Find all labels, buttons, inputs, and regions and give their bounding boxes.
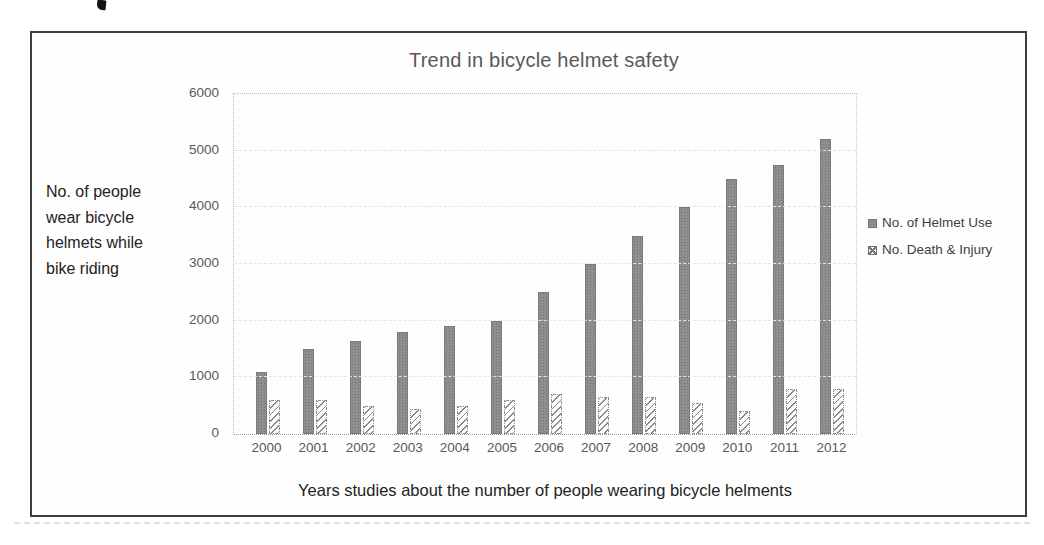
bar-helmet-use <box>256 372 267 434</box>
bar-death-injury <box>504 400 515 434</box>
gridline <box>234 263 856 264</box>
y-tick-label: 6000 <box>149 85 219 100</box>
bar-helmet-use <box>585 264 596 434</box>
x-tick-label: 2000 <box>243 440 290 455</box>
bar-helmet-use <box>350 341 361 435</box>
plot-area <box>233 93 857 435</box>
y-tick-label: 2000 <box>149 312 219 327</box>
x-tick-label: 2009 <box>667 440 714 455</box>
legend-item-helmet-use: No. of Helmet Use <box>868 212 992 234</box>
bar-group <box>444 326 468 434</box>
bar-groups <box>234 94 856 434</box>
x-tick-label: 2012 <box>808 440 855 455</box>
x-tick-label: 2005 <box>478 440 525 455</box>
bar-death-injury <box>410 409 421 435</box>
bar-death-injury <box>551 394 562 434</box>
legend-item-death-injury: No. Death & Injury <box>868 239 992 261</box>
bar-group <box>538 292 562 434</box>
bar-death-injury <box>692 403 703 434</box>
y-tick-label: 3000 <box>149 255 219 270</box>
chart-frame: Trend in bicycle helmet safety No. of pe… <box>30 31 1027 517</box>
bar-group <box>256 372 280 434</box>
bar-helmet-use <box>820 139 831 434</box>
bar-death-injury <box>269 400 280 434</box>
x-axis-ticks: 2000200120022003200420052006200720082009… <box>233 440 855 455</box>
bar-helmet-use <box>303 349 314 434</box>
legend-solid-square-icon <box>868 219 877 228</box>
scan-artifact-mark <box>97 0 107 10</box>
bar-death-injury <box>363 406 374 434</box>
x-tick-label: 2011 <box>761 440 808 455</box>
y-tick-label: 1000 <box>149 368 219 383</box>
bar-helmet-use <box>444 326 455 434</box>
legend-label-helmet-use: No. of Helmet Use <box>882 212 992 234</box>
y-tick-label: 5000 <box>149 142 219 157</box>
bar-group <box>350 341 374 435</box>
bar-group <box>397 332 421 434</box>
chart-title: Trend in bicycle helmet safety <box>233 49 855 72</box>
legend-hatched-square-icon <box>868 246 877 255</box>
bar-helmet-use <box>679 207 690 434</box>
bar-group <box>303 349 327 434</box>
x-tick-label: 2008 <box>620 440 667 455</box>
x-tick-label: 2004 <box>431 440 478 455</box>
bar-death-injury <box>739 411 750 434</box>
bar-helmet-use <box>726 179 737 434</box>
x-tick-label: 2002 <box>337 440 384 455</box>
bar-death-injury <box>316 400 327 434</box>
legend: No. of Helmet Use No. Death & Injury <box>868 212 992 261</box>
bar-helmet-use <box>773 165 784 434</box>
bar-death-injury <box>598 397 609 434</box>
gridline <box>234 206 856 207</box>
bar-group <box>632 236 656 434</box>
x-tick-label: 2006 <box>525 440 572 455</box>
x-tick-label: 2001 <box>290 440 337 455</box>
bar-group <box>726 179 750 434</box>
y-tick-label: 0 <box>149 425 219 440</box>
bar-death-injury <box>645 397 656 434</box>
bar-death-injury <box>457 406 468 434</box>
y-tick-label: 4000 <box>149 198 219 213</box>
x-tick-label: 2010 <box>714 440 761 455</box>
gridline <box>234 320 856 321</box>
bar-death-injury <box>786 389 797 434</box>
bar-group <box>773 165 797 434</box>
bar-group <box>679 207 703 434</box>
x-axis-title: Years studies about the number of people… <box>225 481 865 500</box>
bar-group <box>585 264 609 434</box>
scan-artifact-line <box>14 522 1030 524</box>
bar-group <box>820 139 844 434</box>
bar-death-injury <box>833 389 844 434</box>
bar-helmet-use <box>632 236 643 434</box>
bar-helmet-use <box>397 332 408 434</box>
bar-helmet-use <box>538 292 549 434</box>
gridline <box>234 376 856 377</box>
x-tick-label: 2007 <box>573 440 620 455</box>
x-tick-label: 2003 <box>384 440 431 455</box>
gridline <box>234 150 856 151</box>
legend-label-death-injury: No. Death & Injury <box>882 239 992 261</box>
